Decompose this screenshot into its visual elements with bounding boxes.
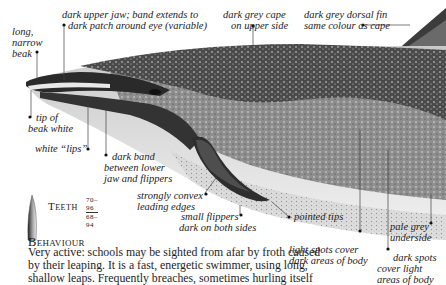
annotation-tip-of-beak: tip of beak white — [36, 112, 73, 134]
teeth-lower: 68–94 — [86, 213, 98, 229]
teeth-fraction: 70–96 68–94 — [86, 196, 98, 229]
annotation-pointed-tips: pointed tips — [294, 211, 343, 222]
annotation-dark-upper-jaw: dark upper jaw; band extends to dark pat… — [62, 9, 207, 31]
teeth-label: Teeth — [48, 200, 78, 212]
annotation-white-lips: white “lips” — [35, 143, 87, 154]
annotation-long-narrow-beak: long, narrow beak — [12, 26, 43, 59]
annotation-dorsal-fin: dark grey dorsal fin same colour as cape — [304, 9, 390, 31]
annotation-small-flippers: small flippers dark on both sides — [179, 211, 256, 233]
annotation-dark-grey-cape: dark grey cape on upper side — [223, 9, 288, 31]
annotation-dark-band: dark band between lower jaw and flippers — [104, 151, 172, 184]
annotation-pale-underside: pale grey underside — [390, 221, 431, 243]
annotation-convex-edges: strongly convex leading edges — [137, 190, 203, 212]
teeth-upper: 70–96 — [86, 196, 98, 213]
teeth-count: Teeth 70–96 68–94 — [48, 200, 78, 212]
behaviour-text: Very active: schools may be sighted from… — [28, 246, 433, 285]
